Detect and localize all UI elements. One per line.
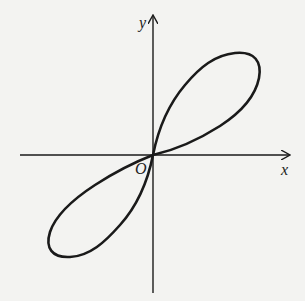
origin-label: O	[135, 160, 147, 177]
x-axis-label: x	[280, 161, 288, 178]
y-axis-label: y	[137, 14, 147, 32]
graph-figure: y x O	[0, 0, 305, 301]
